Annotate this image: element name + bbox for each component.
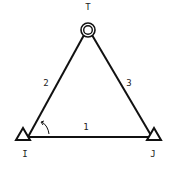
node-label-t: T [85, 2, 91, 12]
triangle-diagram: T I J 1 2 3 [0, 0, 173, 171]
node-label-i: I [22, 149, 27, 159]
node-label-j: J [150, 149, 155, 159]
support-triangle-icon-i [16, 128, 30, 140]
angle-arrow-icon [41, 121, 49, 134]
edge-label-1: 1 [83, 122, 88, 132]
edge-2 [28, 35, 84, 137]
edge-3 [92, 35, 152, 137]
edge-label-2: 2 [43, 78, 48, 88]
target-node-icon [81, 23, 95, 37]
edge-label-3: 3 [126, 78, 131, 88]
